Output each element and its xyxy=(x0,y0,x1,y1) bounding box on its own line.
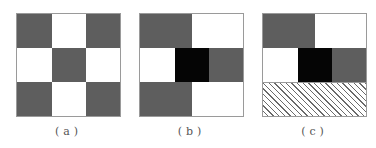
cell-a-bottom-left xyxy=(17,82,52,116)
cell-c-top-left xyxy=(263,14,315,48)
panel-b xyxy=(139,13,244,117)
panel-c xyxy=(262,13,367,117)
cell-a-bottom-center xyxy=(52,82,86,116)
cell-a-mid-right xyxy=(86,48,120,82)
caption-b: (b) xyxy=(139,125,244,138)
cell-a-mid-center xyxy=(52,48,86,82)
cell-c-bottom-hatched xyxy=(263,82,366,116)
cell-c-mid-left xyxy=(263,48,298,82)
cell-a-top-center xyxy=(52,14,86,48)
cell-b-bottom-right xyxy=(192,82,243,116)
cell-c-mid-center xyxy=(298,48,332,82)
panel-a xyxy=(16,13,121,117)
cell-b-top-left xyxy=(140,14,192,48)
caption-c: (c) xyxy=(262,125,367,138)
cell-b-top-right xyxy=(192,14,243,48)
cell-a-top-right xyxy=(86,14,120,48)
cell-b-mid-left xyxy=(140,48,175,82)
cell-b-bottom-left xyxy=(140,82,192,116)
cell-c-mid-right xyxy=(332,48,366,82)
cell-c-top-right xyxy=(315,14,366,48)
caption-a: (a) xyxy=(16,125,121,138)
cell-b-mid-center xyxy=(175,48,209,82)
cell-b-mid-right xyxy=(209,48,243,82)
cell-a-top-left xyxy=(17,14,52,48)
cell-a-mid-left xyxy=(17,48,52,82)
cell-a-bottom-right xyxy=(86,82,120,116)
